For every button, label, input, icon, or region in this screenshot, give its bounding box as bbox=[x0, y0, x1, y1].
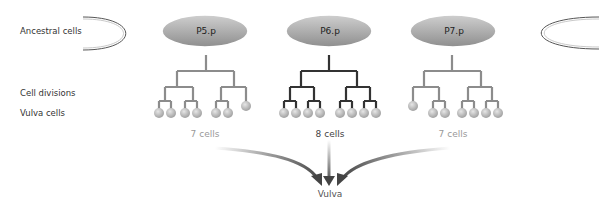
left-neighbor-cell-arc bbox=[83, 17, 126, 50]
arrow-p6p-to-vulva bbox=[323, 140, 335, 186]
p6p-lineage-tree bbox=[284, 55, 376, 109]
arrow-p7p-to-vulva bbox=[337, 148, 450, 186]
p5p-label: P5.p bbox=[196, 26, 216, 36]
p6p-vulva-cells bbox=[279, 108, 381, 118]
p7p-cell-count: 7 cells bbox=[439, 129, 468, 139]
p6p-label: P6.p bbox=[320, 26, 340, 36]
p5p-cell-count: 7 cells bbox=[191, 129, 220, 139]
p5p-vulva-cells bbox=[154, 101, 251, 118]
lineage-diagram bbox=[0, 0, 599, 207]
vulva-label: Vulva bbox=[318, 189, 343, 199]
p7p-label: P7.p bbox=[444, 26, 464, 36]
p5p-lineage-tree bbox=[159, 55, 246, 109]
right-neighbor-cell-arc bbox=[541, 17, 599, 49]
p7p-lineage-tree bbox=[413, 55, 498, 109]
p6p-cell-count: 8 cells bbox=[316, 129, 345, 139]
p7p-vulva-cells bbox=[408, 101, 503, 118]
arrow-p5p-to-vulva bbox=[215, 148, 322, 186]
